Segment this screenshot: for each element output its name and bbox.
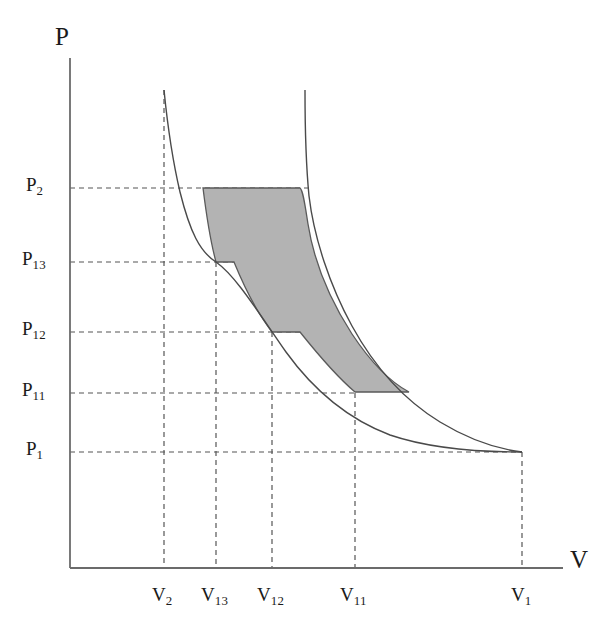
y-tick-label-p13: P13 xyxy=(22,249,46,268)
x-tick-label-v1: V1 xyxy=(511,585,531,604)
x-tick-label-v11: V11 xyxy=(340,585,367,604)
y-tick-label-p11: P11 xyxy=(22,380,45,399)
y-tick-label-p2: P2 xyxy=(26,175,43,194)
volume-axis-label: V xyxy=(570,547,588,572)
y-tick-label-p1: P1 xyxy=(26,439,43,458)
y-tick-label-p12: P12 xyxy=(22,319,46,338)
x-tick-label-v12: V12 xyxy=(257,585,284,604)
x-tick-label-v2: V2 xyxy=(152,585,172,604)
pv-diagram xyxy=(0,0,613,634)
pressure-axis-label: P xyxy=(55,24,69,49)
x-tick-label-v13: V13 xyxy=(201,585,228,604)
